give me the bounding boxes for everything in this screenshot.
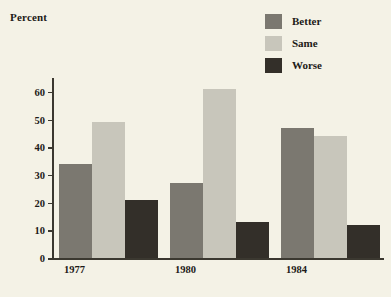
x-axis-label-1980: 1980 — [175, 264, 196, 275]
legend-swatch-worse-icon — [265, 58, 282, 73]
y-tick-label: 60 — [35, 86, 46, 97]
y-tick-label: 0 — [40, 253, 45, 264]
bar-1977-worse — [125, 200, 158, 258]
legend-swatch-same-icon — [265, 36, 282, 51]
bar-1984-same — [314, 136, 347, 258]
x-axis-label-1977: 1977 — [64, 264, 85, 275]
legend-label: Better — [292, 15, 321, 27]
x-axis-label-1984: 1984 — [286, 264, 307, 275]
legend-label: Worse — [292, 59, 322, 71]
y-axis-title: Percent — [10, 11, 47, 23]
legend-label: Same — [292, 37, 318, 49]
tick-mark — [48, 230, 52, 232]
tick-mark — [48, 92, 52, 94]
legend-item-same: Same — [265, 32, 385, 54]
bar-1980-better — [170, 183, 203, 258]
chart-legend: BetterSameWorse — [265, 10, 385, 76]
y-axis-line — [52, 78, 54, 259]
legend-item-better: Better — [265, 10, 385, 32]
bar-1980-worse — [236, 222, 269, 258]
tick-mark — [48, 175, 52, 177]
bar-1984-better — [281, 128, 314, 258]
y-tick-label: 20 — [35, 197, 46, 208]
y-tick-label: 40 — [35, 142, 46, 153]
tick-mark — [48, 203, 52, 205]
tick-mark — [48, 120, 52, 122]
y-tick-label: 30 — [35, 169, 46, 180]
x-axis-line — [52, 258, 384, 260]
bar-1984-worse — [347, 225, 380, 258]
y-tick-label: 50 — [35, 114, 46, 125]
legend-swatch-better-icon — [265, 14, 282, 29]
bar-1977-better — [59, 164, 92, 258]
tick-mark — [48, 147, 52, 149]
tick-mark — [48, 258, 52, 260]
plot-area: 0102030405060 197719801984 — [52, 78, 384, 259]
y-tick-label: 10 — [35, 225, 46, 236]
bar-1977-same — [92, 122, 125, 258]
legend-item-worse: Worse — [265, 54, 385, 76]
bar-1980-same — [203, 89, 236, 258]
bar-chart: Percent BetterSameWorse 0102030405060 19… — [0, 0, 391, 297]
